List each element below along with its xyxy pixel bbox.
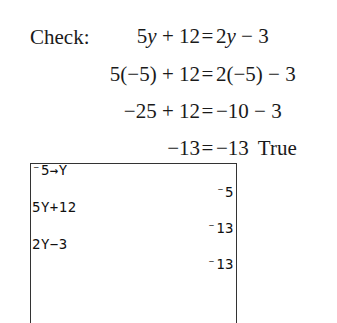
- calc-entry-row: 2Y−3: [31, 236, 236, 252]
- calc-entry-row: ⁻5→Y: [31, 162, 236, 178]
- calc-result-row: ⁻13: [31, 220, 236, 236]
- equation-lhs: −25 + 12: [124, 99, 200, 123]
- rhs-value: −13: [216, 136, 249, 160]
- equation-rhs: 2y − 3: [216, 24, 269, 48]
- equals-sign: =: [200, 136, 215, 160]
- calc-entry-row: 5Y+12: [31, 199, 236, 215]
- equation-rhs: 2(−5) − 3: [216, 62, 296, 86]
- calc-entry: ⁻5→Y: [32, 162, 68, 178]
- equation-line-1: 5y + 12 = 2y − 3: [0, 24, 337, 48]
- calc-result: ⁻13: [207, 220, 234, 236]
- equation-rhs: −10 − 3: [216, 99, 282, 123]
- equals-sign: =: [200, 62, 215, 86]
- equation-lhs: −13: [167, 136, 200, 160]
- equation-lhs: 5y + 12: [137, 24, 200, 48]
- equation-line-2: 5(−5) + 12 = 2(−5) − 3: [0, 62, 337, 86]
- equals-sign: =: [200, 99, 215, 123]
- equation-line-3: −25 + 12 = −10 − 3: [0, 99, 337, 123]
- calc-result: ⁻13: [207, 256, 234, 272]
- calc-result-row: ⁻5: [31, 184, 236, 200]
- calc-entry: 5Y+12: [32, 199, 77, 215]
- calc-result-row: ⁻13: [31, 256, 236, 272]
- calc-result: ⁻5: [216, 184, 234, 200]
- equation-line-4: −13 = −13True: [0, 136, 337, 160]
- equals-sign: =: [200, 24, 215, 48]
- equation-lhs: 5(−5) + 12: [110, 62, 200, 86]
- calculator-screen: ⁻5→Y ⁻5 5Y+12 ⁻13 2Y−3 ⁻13: [30, 163, 237, 323]
- calc-entry: 2Y−3: [32, 236, 68, 252]
- equation-rhs: −13True: [216, 136, 297, 160]
- verdict-label: True: [258, 136, 297, 160]
